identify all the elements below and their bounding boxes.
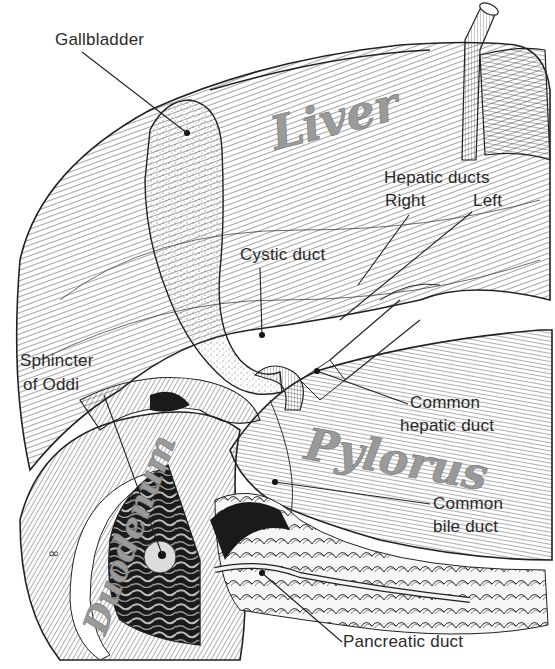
sphincter-label-line2: of Oddi: [23, 375, 79, 395]
gallbladder-label: Gallbladder: [55, 30, 144, 50]
common-hepatic-label-line2: hepatic duct: [400, 416, 494, 436]
cystic-duct-label: Cystic duct: [240, 245, 325, 265]
common-bile-label-line2: bile duct: [433, 517, 498, 537]
svg-text:∞: ∞: [48, 545, 60, 561]
hepatic-left-label: Left: [473, 191, 502, 211]
hepatic-ducts-label: Hepatic ducts: [384, 168, 490, 188]
common-bile-label-line1: Common: [433, 494, 503, 514]
hepatic-right-label: Right: [385, 191, 426, 211]
pancreatic-duct-label: Pancreatic duct: [343, 632, 463, 652]
common-hepatic-label-line1: Common: [410, 393, 480, 413]
illustration: ∞: [0, 0, 555, 669]
anatomy-diagram: ∞ Liver Pylorus Duodenum Gallbladder Hep…: [0, 0, 555, 669]
sphincter-label-line1: Sphincter: [20, 351, 94, 371]
